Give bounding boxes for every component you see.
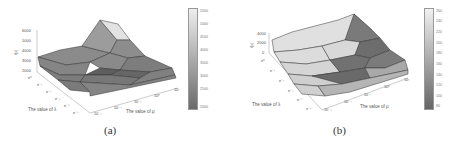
mu-tick: 10¹: [174, 88, 180, 92]
colorbar-tick: 160: [436, 62, 442, 66]
mu-tick: 10⁻¹: [134, 100, 142, 104]
mu-tick: 10⁰: [384, 85, 390, 89]
z-tick: 0: [262, 50, 265, 55]
colorbar-tick: 3000: [200, 74, 208, 78]
colorbar-tick: 220: [436, 30, 442, 34]
mu-axis-label: The value of μ: [126, 109, 155, 114]
colorbar-tick: 5500: [200, 9, 208, 13]
colorbar-tick: 240: [436, 19, 442, 23]
colorbar-tick: 120: [436, 83, 442, 87]
lambda-tick: e⁻⁵: [73, 111, 79, 115]
lambda-tick: e⁻⁴: [64, 104, 70, 108]
lambda-tick: e⁰: [28, 76, 32, 80]
lambda-tick: e⁻¹: [37, 83, 43, 87]
mu-tick: 10⁻³: [324, 108, 332, 112]
z-tick: 2000: [22, 68, 32, 73]
lambda-tick: e⁻³: [55, 97, 61, 101]
lambda-tick: e⁻³: [288, 89, 294, 93]
mu-tick: 10⁻¹: [364, 93, 372, 97]
mu-tick: 10⁰: [154, 94, 160, 98]
mu-axis-label: The value of μ: [360, 104, 389, 109]
lambda-tick: e⁻⁵: [306, 107, 312, 111]
z-tick: 2000: [257, 40, 267, 45]
lambda-axis-label: The value of λ: [28, 107, 57, 112]
colorbar-b: [424, 8, 434, 110]
lambda-tick: e⁻⁴: [297, 98, 303, 102]
z-axis-label: t(s): [14, 50, 18, 55]
colorbar-tick: 180: [436, 51, 442, 55]
colorbar-tick: 4500: [200, 35, 208, 39]
lambda-tick: e⁻²: [279, 79, 285, 83]
z-tick: 6000: [22, 28, 32, 33]
colorbar-tick: 4000: [200, 48, 208, 52]
colorbar-tick: 100: [436, 94, 442, 98]
colorbar-tick: 200: [436, 41, 442, 45]
z-tick: 4000: [257, 31, 267, 36]
mu-tick: 10⁻³: [94, 112, 102, 116]
z-tick: 4000: [22, 48, 32, 53]
mu-tick: 10¹: [404, 78, 410, 82]
z-axis-label: t(s): [250, 43, 254, 48]
colorbar-a: [188, 8, 198, 110]
colorbar-tick: 260: [436, 9, 442, 13]
z-tick: 5000: [22, 38, 32, 43]
colorbar-tick: 80: [436, 104, 440, 108]
figure-panel-b: 4000 2000 0 t(s) e⁰ e⁻¹ e⁻² e⁻³ e⁻⁴ e⁻⁵ …: [230, 0, 460, 149]
figure-panel-a: 6000 5000 4000 3000 2000 t(s) e⁰ e⁻¹ e⁻²…: [0, 0, 230, 149]
lambda-tick: e⁻²: [46, 90, 52, 94]
colorbar-tick: 3500: [200, 61, 208, 65]
z-tick: 3000: [22, 58, 32, 63]
lambda-tick: e⁻¹: [270, 69, 276, 73]
mu-tick: 10⁻²: [114, 106, 122, 110]
lambda-axis-label: The value of λ: [252, 102, 281, 107]
surface-mesh-a: [38, 20, 176, 96]
mu-tick: 10⁻²: [344, 100, 352, 104]
colorbar-tick: 2000: [200, 105, 208, 109]
colorbar-tick: 5000: [200, 22, 208, 26]
surface-mesh-b: [272, 14, 408, 96]
colorbar-tick: 2500: [200, 87, 208, 91]
caption-a: (a): [104, 124, 116, 136]
caption-b: (b): [333, 124, 346, 136]
colorbar-tick: 140: [436, 73, 442, 77]
lambda-tick: e⁰: [261, 59, 265, 63]
